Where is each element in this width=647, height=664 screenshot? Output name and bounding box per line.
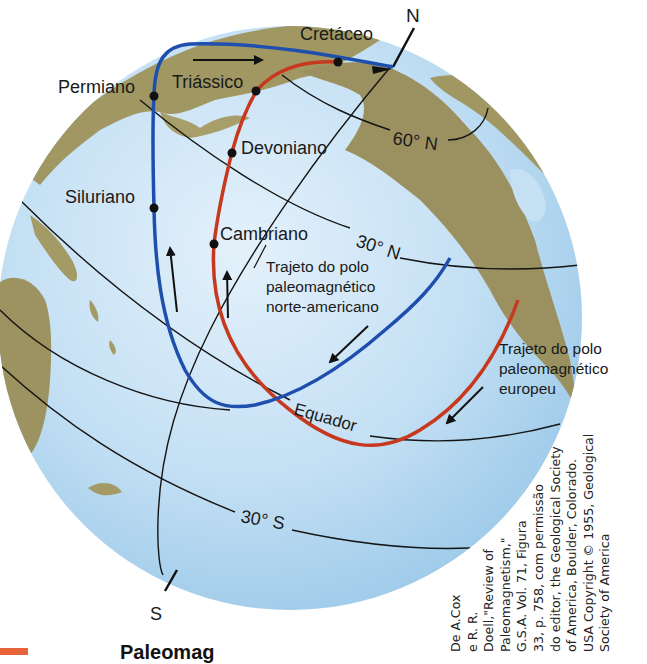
credit-line: USA Copyright © 1955, Geological: [581, 434, 598, 652]
credit-line: De A.Cox: [448, 434, 465, 652]
label-devonian: Devoniano: [241, 138, 327, 158]
pole-label-north: N: [406, 5, 420, 26]
credit-line: of America, Boulder, Colorado.: [564, 434, 581, 652]
dot-permian: [150, 92, 159, 101]
label-cambrian: Cambriano: [220, 224, 308, 244]
figure-number-marker: [0, 648, 28, 655]
pole-label-south: S: [150, 604, 162, 624]
arrow-european-up: [227, 272, 228, 318]
label-north-american-path-3: norte-americano: [266, 298, 379, 315]
dot-triassic: [252, 87, 261, 96]
dot-devonian: [228, 149, 237, 158]
dot-silurian: [150, 204, 159, 213]
credit-line: Doell,"Review of: [481, 434, 498, 652]
credit-line: Paleomagnetism,": [498, 434, 515, 652]
dot-cambrian: [210, 240, 219, 249]
label-silurian: Siluriano: [65, 187, 135, 207]
label-european-path-2: paleomagnético: [499, 360, 608, 377]
credit-line: 33, p. 758, com permissão: [531, 434, 548, 652]
credit-line: G.S.A. Vol. 71, Figura: [514, 434, 531, 652]
label-north-american-path-2: paleomagnético: [266, 278, 375, 295]
label-permian: Permiano: [58, 77, 135, 97]
credit-line: e R. R.: [465, 434, 482, 652]
dot-cretaceous: [334, 58, 343, 67]
label-north-american-path-1: Trajeto do polo: [266, 258, 369, 275]
image-credit: De A.Cox e R. R. Doell,"Review of Paleom…: [448, 434, 614, 652]
credit-line: Society of America: [597, 434, 614, 652]
label-european-path-3: europeu: [499, 380, 556, 397]
label-cretaceous: Cretáceo: [300, 24, 373, 44]
label-european-path-1: Trajeto do polo: [499, 340, 602, 357]
figure-caption-fragment: Paleomag: [120, 641, 214, 664]
label-triassic: Triássico: [172, 72, 243, 92]
credit-line: do editor, the Geological Society: [548, 434, 565, 652]
